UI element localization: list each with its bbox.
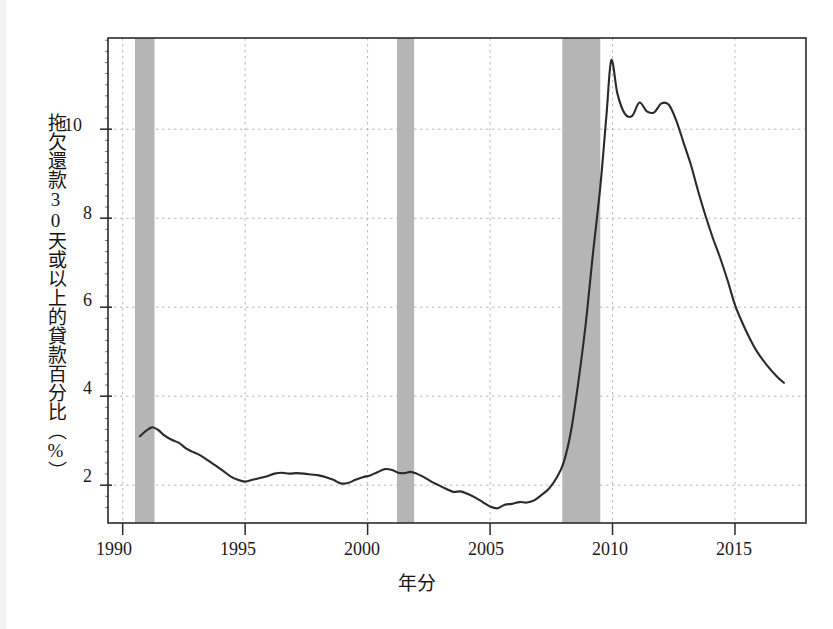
plot-area bbox=[0, 0, 833, 629]
y-tick-label-6: 6 bbox=[62, 290, 92, 311]
plot-frame bbox=[108, 38, 806, 523]
x-tick-label-1995: 1995 bbox=[203, 539, 273, 560]
x-tick-label-2010: 2010 bbox=[575, 539, 645, 560]
chart-figure: 拖欠還款30天或以上的貸款百分比（%） 年分 2 4 6 8 10 1990 1… bbox=[0, 0, 833, 629]
y-tick-label-8: 8 bbox=[62, 203, 92, 224]
y-tick-label-10: 10 bbox=[52, 115, 82, 136]
recession-band bbox=[397, 38, 414, 523]
y-axis-title: 拖欠還款30天或以上的貸款百分比（%） bbox=[22, 96, 66, 496]
y-tick-label-4: 4 bbox=[62, 378, 92, 399]
gridlines-group bbox=[108, 38, 806, 523]
y-tick-label-2: 2 bbox=[62, 466, 92, 487]
x-tick-label-2005: 2005 bbox=[451, 539, 521, 560]
x-axis-title: 年分 bbox=[0, 568, 833, 595]
x-tick-label-2015: 2015 bbox=[699, 539, 769, 560]
recession-band bbox=[135, 38, 155, 523]
x-tick-label-1990: 1990 bbox=[79, 539, 149, 560]
data-series-line bbox=[140, 60, 784, 508]
x-tick-label-2000: 2000 bbox=[327, 539, 397, 560]
